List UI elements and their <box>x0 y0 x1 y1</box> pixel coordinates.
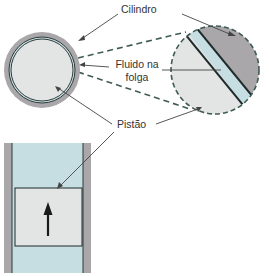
label-fluid-line2: folga <box>113 71 161 83</box>
label-piston: Pistão <box>117 118 146 130</box>
cross-section-view <box>4 32 80 108</box>
longitudinal-view <box>4 143 91 273</box>
piston-cylinder-diagram <box>0 0 269 276</box>
label-fluid-line1: Fluido na <box>113 58 161 70</box>
right-cylinder-wall <box>83 143 91 273</box>
label-cylinder: Cilindro <box>121 3 157 15</box>
left-cylinder-wall <box>4 143 12 273</box>
